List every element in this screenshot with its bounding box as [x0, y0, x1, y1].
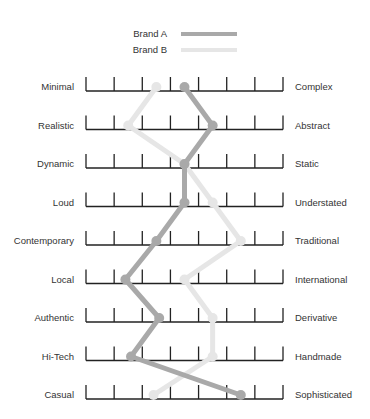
legend: Brand ABrand B: [133, 28, 237, 55]
data-point: [208, 352, 218, 362]
right-pole-label: Complex: [295, 81, 333, 92]
data-point: [151, 236, 161, 246]
right-pole-label: Sophisticated: [295, 389, 352, 400]
scale-row: RealisticAbstract: [38, 116, 330, 131]
data-point: [151, 82, 161, 92]
legend-label: Brand A: [133, 28, 167, 39]
scale-row: LoudUnderstated: [53, 193, 347, 208]
left-pole-label: Local: [51, 274, 74, 285]
right-pole-label: Derivative: [295, 312, 337, 323]
data-point: [149, 390, 159, 400]
left-pole-label: Minimal: [41, 81, 74, 92]
right-pole-label: Abstract: [295, 120, 330, 131]
left-pole-label: Hi-Tech: [42, 351, 74, 362]
left-pole-label: Authentic: [34, 312, 74, 323]
scale-row: Hi-TechHandmade: [42, 347, 342, 362]
left-pole-label: Casual: [44, 389, 74, 400]
scale-row: CasualSophisticated: [44, 385, 352, 400]
right-pole-label: Traditional: [295, 235, 339, 246]
data-point: [208, 198, 218, 208]
scale-row: AuthenticDerivative: [34, 308, 337, 323]
data-point: [123, 121, 133, 131]
data-point: [236, 236, 246, 246]
data-point: [180, 275, 190, 285]
left-pole-label: Dynamic: [37, 158, 74, 169]
data-point: [120, 275, 130, 285]
scale-row: ContemporaryTraditional: [14, 231, 339, 246]
data-point: [180, 198, 190, 208]
left-pole-label: Realistic: [38, 120, 74, 131]
left-pole-label: Contemporary: [14, 235, 74, 246]
data-point: [180, 82, 190, 92]
right-pole-label: Understated: [295, 197, 347, 208]
scale-rows: MinimalComplexRealisticAbstractDynamicSt…: [14, 77, 352, 400]
data-point: [180, 159, 190, 169]
right-pole-label: International: [295, 274, 347, 285]
semantic-differential-chart: Brand ABrand B MinimalComplexRealisticAb…: [0, 0, 370, 419]
left-pole-label: Loud: [53, 197, 74, 208]
right-pole-label: Static: [295, 158, 319, 169]
right-pole-label: Handmade: [295, 351, 341, 362]
legend-label: Brand B: [133, 44, 167, 55]
data-point: [208, 121, 218, 131]
data-point: [126, 352, 136, 362]
data-point: [208, 313, 218, 323]
series-line: [128, 87, 241, 395]
data-point: [154, 313, 164, 323]
data-point: [236, 390, 246, 400]
